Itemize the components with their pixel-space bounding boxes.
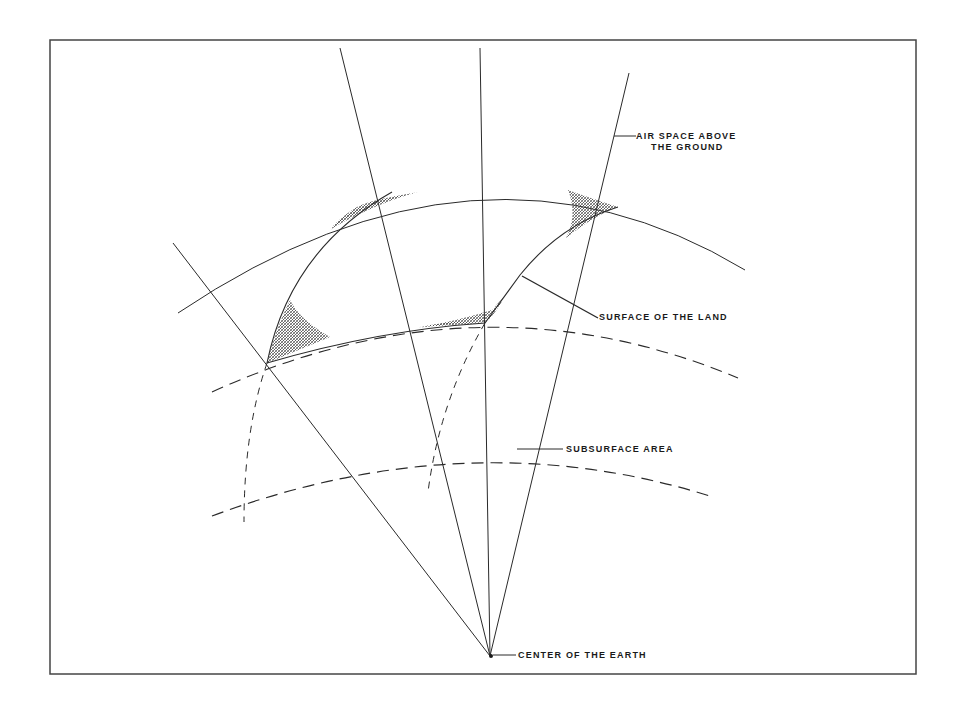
air-space-label-line2: THE GROUND <box>636 142 737 153</box>
air-space-label-line1: AIR SPACE ABOVE <box>636 131 737 142</box>
air-space-label: AIR SPACE ABOVE THE GROUND <box>636 131 737 153</box>
surface-label: SURFACE OF THE LAND <box>599 312 728 323</box>
radial-lines <box>173 48 629 656</box>
subsurface-dashed-arc <box>212 463 713 516</box>
left-dashed-boundary <box>244 363 267 522</box>
earth-sector-diagram <box>0 0 964 703</box>
middle-dashed-boundary <box>428 323 485 492</box>
center-label: CENTER OF THE EARTH <box>518 650 647 661</box>
air-space-arc <box>178 199 745 313</box>
frame-border <box>50 40 916 674</box>
subsurface-label: SUBSURFACE AREA <box>566 444 674 455</box>
hatched-corners <box>267 190 618 363</box>
center-point <box>489 654 493 658</box>
